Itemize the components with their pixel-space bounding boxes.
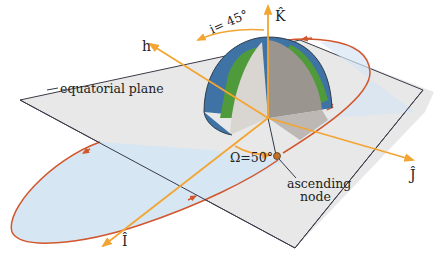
equatorial-plane-leader <box>47 88 58 90</box>
orbit-direction-arrow <box>304 38 312 39</box>
equatorial-plane-label: equatorial plane <box>60 81 164 96</box>
k-axis-label: K̂ <box>275 7 286 24</box>
j-axis-label: Ĵ <box>408 166 416 183</box>
i-axis-label: Î <box>122 232 128 249</box>
ascending-node-dot <box>274 153 281 160</box>
inclination-label: i= 45° <box>207 7 250 37</box>
raan-label: Ω=50° <box>230 150 273 165</box>
ascending-node-label-line2: node <box>300 189 331 204</box>
h-vector-label: h <box>142 38 151 54</box>
orbital-elements-diagram: K̂ h i= 45° equatorial plane Ω=50° ascen… <box>0 0 434 263</box>
